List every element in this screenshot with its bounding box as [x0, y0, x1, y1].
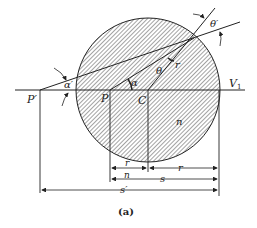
- dim-label-r-over-n-denominator: n: [124, 170, 130, 180]
- label-n-medium: n: [176, 116, 182, 127]
- dim-label-r-over-n-numerator: r: [125, 158, 130, 168]
- label-alpha: α: [131, 77, 138, 88]
- label-c: C: [138, 94, 147, 107]
- dim-label-s: s: [160, 173, 165, 184]
- label-p: P: [100, 92, 109, 105]
- figure-caption: (a): [118, 206, 134, 217]
- alpha-prime-arrow-bottom: [62, 93, 68, 106]
- dim-label-r: r: [178, 162, 184, 173]
- label-theta-prime: θ′: [210, 18, 219, 29]
- refraction-diagram: P′ P C V1 α′ α θ θ′ r n r n r s s′ (a): [0, 0, 257, 228]
- theta-prime-arrow-bottom: [220, 32, 221, 46]
- theta-prime-arrow-top: [193, 14, 204, 18]
- label-v1: V1: [229, 77, 241, 91]
- label-p-prime: P′: [26, 93, 37, 106]
- label-alpha-prime: α′: [64, 79, 74, 90]
- label-theta: θ: [156, 65, 162, 76]
- dim-label-s-prime: s′: [120, 184, 128, 195]
